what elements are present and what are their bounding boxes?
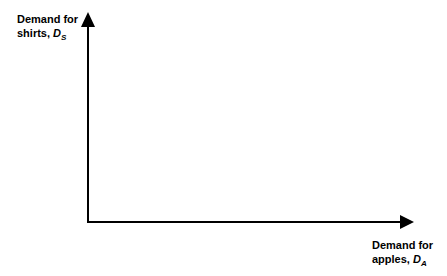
y-axis-symbol: D xyxy=(53,27,61,39)
y-axis-label-line2: shirts, DS xyxy=(17,27,78,41)
y-axis-arrowhead-icon xyxy=(81,12,95,27)
y-axis-label: Demand for shirts, DS xyxy=(17,13,78,40)
y-axis-subscript: S xyxy=(61,33,66,42)
x-axis-symbol: D xyxy=(413,253,421,265)
axes-diagram xyxy=(0,0,447,276)
y-axis-label-line1: Demand for xyxy=(17,13,78,27)
x-axis-label: Demand for apples, DA xyxy=(372,239,433,266)
x-axis-subscript: A xyxy=(421,259,427,268)
x-axis-label-line1: Demand for xyxy=(372,239,433,253)
x-axis-label-line2: apples, DA xyxy=(372,253,433,267)
x-axis-arrowhead-icon xyxy=(400,215,414,229)
